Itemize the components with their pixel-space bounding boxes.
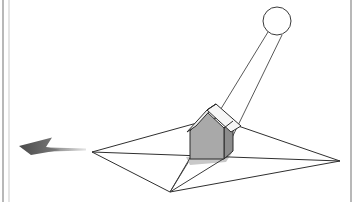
light-rays (170, 32, 282, 192)
figure-frame (0, 0, 360, 202)
sun-icon (263, 7, 291, 35)
arrow-head-icon (19, 138, 60, 156)
ray-right (226, 35, 282, 150)
shadow-projection-diagram (0, 0, 360, 202)
direction-arrow (19, 138, 86, 156)
house (187, 104, 241, 159)
shadow-edge-left (170, 158, 190, 192)
